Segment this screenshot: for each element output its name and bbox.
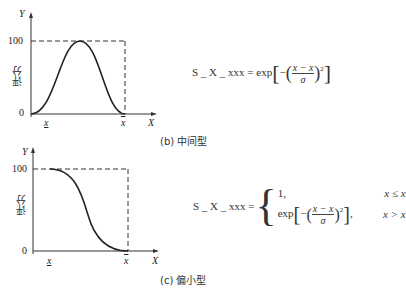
formula-b-fraction: x − xσ [292, 62, 315, 85]
x-tick-low: x [47, 255, 51, 266]
formula-c-fraction: x − xσ [312, 203, 335, 226]
brace-icon: { [256, 186, 277, 226]
x-tick-high: x [121, 117, 125, 128]
y-axis-label: 评分 [14, 195, 29, 215]
x-tick-low: x [44, 117, 48, 128]
chart-b-plot [0, 0, 184, 130]
case2-condition: x > x [383, 208, 406, 220]
x-tick-high: x [124, 255, 128, 266]
y-axis-letter: Y [19, 8, 25, 19]
case1-condition: x ≤ x [384, 187, 405, 199]
formula-b: S _ X _ xxx = exp[−(x − xσ)2] [192, 60, 331, 86]
case2-exp: exp [278, 207, 294, 219]
y-tick-100: 100 [12, 163, 27, 174]
formula-c-lhs: S _ X _ xxx = [193, 200, 255, 212]
case1-value: 1, [278, 187, 286, 199]
y-tick-0: 0 [22, 245, 27, 256]
x-axis-letter: X [148, 117, 154, 128]
y-tick-100: 100 [8, 35, 23, 46]
caption-c: (c) 偏小型 [160, 272, 206, 287]
formula-c: S _ X _ xxx = { 1, x ≤ x exp[−(x − xσ)2]… [193, 186, 406, 226]
x-axis-letter: X [152, 255, 158, 266]
y-axis-letter: Y [22, 146, 28, 157]
y-tick-0: 0 [19, 107, 24, 118]
formula-b-lhs: S _ X _ xxx = exp [192, 66, 272, 78]
y-axis-label: 评分 [10, 66, 25, 86]
